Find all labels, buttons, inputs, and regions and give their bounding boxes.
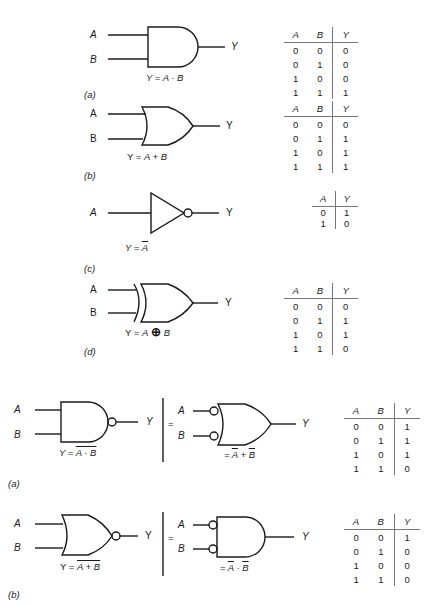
equation-operator: ·	[234, 562, 242, 573]
equation-operand-b: B	[161, 151, 167, 162]
output-label-y: Y	[146, 417, 153, 427]
or-inverted-inputs-symbol	[193, 404, 296, 445]
equation-expression-negated: A + B	[77, 561, 100, 572]
figure-tag: (c)	[84, 263, 95, 274]
equivalence-sign: =	[168, 419, 174, 429]
input-label-a: A	[90, 109, 97, 119]
equation-operator: +	[150, 151, 161, 162]
de-morgan-or-equation: = A + B	[224, 450, 255, 460]
equation-operand-a: A	[142, 327, 148, 338]
output-label-y: Y	[226, 121, 233, 131]
equation-lhs: =	[224, 449, 232, 460]
or-equation: Y = A + B	[127, 152, 167, 162]
equation-lhs: Y =	[60, 561, 77, 572]
and-gate-symbol	[108, 27, 225, 67]
input-label-a: A	[90, 208, 97, 218]
equation-lhs: Y =	[59, 447, 76, 458]
figure-tag: (a)	[84, 89, 96, 100]
nor-truth-table: ABY 001 010 100 110	[344, 514, 420, 586]
figure-tag: (b)	[84, 170, 96, 181]
input-label-b: B	[90, 55, 97, 65]
input-label-a: A	[90, 30, 97, 40]
input-label-b: B	[14, 430, 21, 440]
equation-operator: ·	[169, 72, 177, 83]
equiv-input-label-a: A	[178, 520, 185, 530]
equiv-input-label-b: B	[178, 431, 185, 441]
equation-operator: +	[238, 449, 249, 460]
equation-operand-a-negated: A	[142, 242, 148, 253]
xor-gate-symbol	[108, 284, 218, 322]
not-truth-table: AY 01 10	[312, 191, 358, 229]
xor-circle-plus-icon: ⊕	[151, 325, 161, 339]
or-truth-table: ABY 000 011 101 111	[284, 101, 358, 173]
output-label-y: Y	[231, 42, 238, 52]
input-label-b: B	[90, 134, 97, 144]
equivalence-sign: =	[168, 533, 174, 543]
equation-lhs: Y =	[146, 72, 163, 83]
nand-truth-table: ABY 001 011 101 110	[344, 403, 420, 475]
output-label-y: Y	[226, 208, 233, 218]
input-label-a: A	[90, 285, 97, 295]
nor-equation: Y = A + B	[60, 562, 100, 572]
and-truth-table: ABY 000 010 100 111	[284, 27, 358, 99]
figure-tag: (d)	[84, 346, 96, 357]
equation-operand-b-negated: B	[249, 449, 255, 460]
input-label-b: B	[14, 543, 21, 553]
equation-lhs: Y =	[127, 151, 144, 162]
and-inverted-inputs-symbol	[193, 517, 294, 557]
input-label-a: A	[14, 405, 21, 415]
equation-operand-b-negated: B	[242, 562, 248, 573]
equation-operand-b: B	[177, 72, 183, 83]
equation-lhs: Y =	[125, 242, 142, 253]
not-gate-symbol	[108, 193, 219, 233]
figure-tag: (a)	[8, 478, 20, 489]
figure-tag: (b)	[8, 589, 20, 600]
nand-gate-symbol	[35, 402, 138, 442]
xor-equation: Y = A ⊕ B	[125, 327, 170, 338]
equation-operand-b: B	[164, 327, 170, 338]
de-morgan-and-equation: = A · B	[220, 563, 249, 573]
input-label-b: B	[90, 308, 97, 318]
equiv-input-label-a: A	[178, 406, 185, 416]
or-gate-symbol	[108, 107, 220, 145]
and-equation: Y = A · B	[146, 73, 183, 83]
equation-expression-negated: A · B	[76, 447, 97, 458]
nand-equation: Y = A · B	[59, 448, 96, 458]
output-label-y: Y	[145, 531, 152, 541]
equiv-output-label-y: Y	[302, 532, 309, 542]
equation-lhs: =	[220, 562, 228, 573]
xor-truth-table: ABY 000 011 101 110	[284, 283, 358, 355]
not-equation: Y = A	[125, 243, 148, 253]
equiv-input-label-b: B	[178, 544, 185, 554]
equiv-output-label-y: Y	[302, 419, 309, 429]
output-label-y: Y	[225, 298, 232, 308]
input-label-a: A	[14, 519, 21, 529]
equation-lhs: Y =	[125, 327, 142, 338]
nor-gate-symbol	[35, 515, 138, 555]
